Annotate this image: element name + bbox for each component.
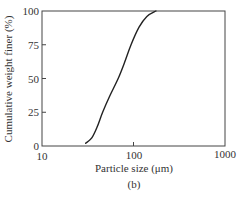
y-axis-label: Cumulative weight finer (%) — [2, 15, 15, 142]
y-tick-label: 100 — [23, 5, 40, 17]
data-series-line — [86, 11, 156, 143]
y-tick-label: 25 — [28, 106, 40, 118]
x-tick-label: 10 — [37, 150, 49, 162]
x-tick-label: 100 — [126, 149, 143, 161]
figure-subtitle: (b) — [128, 178, 141, 191]
y-tick-label: 75 — [28, 39, 40, 51]
x-tick-label: 1000 — [214, 148, 237, 160]
plot-frame — [42, 11, 225, 146]
chart-canvas: 100 75 50 25 0 10 100 1000 Particle size… — [0, 0, 238, 197]
y-axis — [42, 45, 46, 113]
y-tick-label: 50 — [28, 73, 40, 85]
x-axis-label: Particle size (μm) — [95, 162, 173, 175]
